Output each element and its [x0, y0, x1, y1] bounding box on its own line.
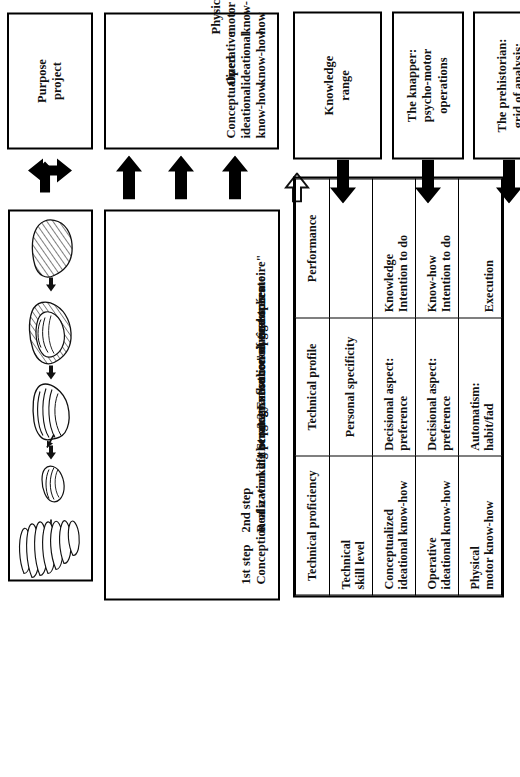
label-prehistorian: The prehistorian: grid of analysis:: [495, 38, 520, 132]
cell-performance-knowledge: Knowledge Intention to do: [373, 179, 416, 318]
knowhow-item-physical: Physical motor know-how: [209, 0, 269, 34]
working-steps-box: 1st step Conception of a working program…: [104, 209, 280, 600]
knowhow-item-operative: Operative ideational know-how: [224, 29, 269, 85]
knowhow-outputs-inner: Conceptualized ideational know-how Opera…: [106, 14, 277, 147]
table-row: Physical motor know-how Automatism: habi…: [459, 179, 502, 595]
knowhow-outputs-box: Conceptualized ideational know-how Opera…: [104, 12, 279, 149]
table-header-performance: Performance: [296, 179, 330, 318]
purpose-project-label: Purpose project: [35, 59, 66, 103]
up-arrow-top-1: [116, 155, 142, 199]
table-row: Operative ideational know-how Decisional…: [416, 179, 459, 595]
rotated-diagram-stage: Purpose project Conceptualized ideationa…: [0, 0, 520, 777]
up-arrow-to-conceptualized: [33, 153, 64, 193]
figure-sheet: Purpose project Conceptualized ideationa…: [0, 0, 520, 777]
table-row: Conceptualized ideational know-how Decis…: [373, 179, 416, 595]
cell-proficiency-operative: Operative ideational know-how: [416, 456, 459, 595]
table-header-row: Technical proficiency Technical profile …: [296, 179, 330, 595]
flint-knapping-illustration: [10, 211, 91, 579]
cell-profile-automatism: Automatism: habit/fad: [459, 317, 502, 456]
table-header-profile: Technical profile: [296, 317, 330, 456]
label-knapper: The knapper: psycho-motor operations: [405, 48, 451, 122]
purpose-project-box: Purpose project: [7, 12, 93, 149]
cell-performance-knowhow: Know-how Intention to do: [416, 179, 459, 318]
cell-performance-blank: [330, 179, 373, 318]
up-arrow-top-2: [168, 155, 194, 199]
label-box-knapper: The knapper: psycho-motor operations: [392, 11, 464, 159]
cell-profile-decisional-1: Decisional aspect: preference: [373, 317, 416, 456]
label-knowledge-range: Knowledge range: [322, 55, 353, 115]
cell-proficiency-skill: Technical skill level: [330, 456, 373, 595]
label-box-prehistorian: The prehistorian: grid of analysis:: [473, 11, 520, 159]
interpretation-table-grid: Technical proficiency Technical profile …: [295, 178, 502, 595]
label-box-knowledge-range: Knowledge range: [293, 11, 382, 159]
up-arrow-top-3: [222, 155, 248, 199]
step-2-2: 2.2 Execution of gestures: [254, 296, 269, 428]
working-steps-inner: 1st step Conception of a working program…: [106, 211, 278, 598]
table-row: Technical skill level Personal specifici…: [330, 179, 373, 595]
cell-profile-decisional-2: Decisional aspect: preference: [416, 317, 459, 456]
interpretation-table: Technical proficiency Technical profile …: [295, 178, 502, 595]
cell-proficiency-physical: Physical motor know-how: [459, 456, 502, 595]
cell-profile-specificity: Personal specificity: [330, 317, 373, 456]
cell-performance-execution: Execution: [459, 179, 502, 318]
cell-proficiency-conceptualized: Conceptualized ideational know-how: [373, 456, 416, 595]
flint-knapping-illustration-box: [8, 209, 93, 581]
table-header-proficiency: Technical proficiency: [296, 456, 330, 595]
